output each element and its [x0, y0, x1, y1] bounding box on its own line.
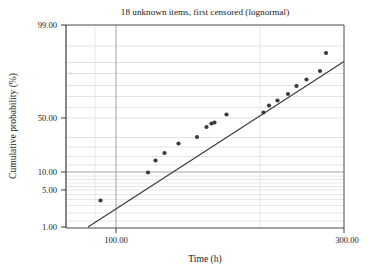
y-tick-label: 1.00 — [42, 222, 57, 232]
data-point — [267, 103, 271, 107]
probability-plot: 18 unknown items, first censored (lognor… — [0, 0, 377, 272]
y-tick-label: 5.00 — [42, 185, 57, 195]
chart-title: 18 unknown items, first censored (lognor… — [121, 7, 289, 17]
data-point — [98, 198, 102, 202]
scan-artifact-speck — [70, 73, 72, 75]
data-point — [204, 125, 208, 129]
data-point — [146, 170, 150, 174]
data-point — [224, 112, 228, 116]
data-point — [324, 51, 328, 55]
data-point — [261, 110, 265, 114]
data-point — [176, 141, 180, 145]
data-point — [275, 98, 279, 102]
y-tick-label: 99.00 — [38, 20, 57, 30]
x-tick-label: 300.00 — [335, 235, 359, 245]
y-tick-label: 10.00 — [38, 167, 57, 177]
data-point — [195, 135, 199, 139]
data-point — [212, 120, 216, 124]
chart-canvas: 18 unknown items, first censored (lognor… — [0, 0, 377, 272]
data-point — [286, 92, 290, 96]
y-tick-label: 50.00 — [38, 113, 57, 123]
data-point — [318, 69, 322, 73]
y-axis-title: Cumulative probability (%) — [7, 73, 19, 179]
data-point — [304, 77, 308, 81]
data-point — [162, 151, 166, 155]
data-point — [153, 158, 157, 162]
x-axis-title: Time (h) — [188, 253, 222, 265]
x-tick-label: 100.00 — [104, 235, 128, 245]
data-point — [294, 84, 298, 88]
